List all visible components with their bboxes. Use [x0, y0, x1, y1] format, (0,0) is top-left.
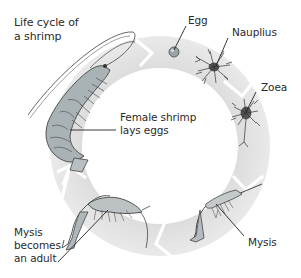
label-line: lays eggs	[120, 124, 196, 137]
title-line-2: a shrimp	[14, 30, 79, 44]
label-nauplius: Nauplius	[232, 26, 277, 39]
diagram-title: Life cycle of a shrimp	[14, 16, 79, 44]
label-line: Mysis	[248, 236, 277, 249]
label-line: Zoea	[261, 81, 287, 94]
label-female-shrimp: Female shrimp lays eggs	[120, 111, 196, 137]
label-line: Mysis	[14, 226, 61, 239]
egg-illustration	[169, 47, 179, 57]
label-line: Nauplius	[232, 26, 277, 39]
title-line-1: Life cycle of	[14, 16, 79, 30]
label-mysis: Mysis	[248, 236, 277, 249]
label-egg: Egg	[188, 14, 208, 27]
shrimp-life-cycle-diagram: Life cycle of a shrimp Female shrimp lay…	[0, 0, 301, 278]
label-mysis-becomes-adult: Mysis becomes an adult	[14, 226, 61, 265]
label-line: becomes	[14, 239, 61, 252]
label-line: an adult	[14, 252, 61, 265]
label-zoea: Zoea	[261, 81, 287, 94]
label-line: Egg	[188, 14, 208, 27]
label-line: Female shrimp	[120, 111, 196, 124]
